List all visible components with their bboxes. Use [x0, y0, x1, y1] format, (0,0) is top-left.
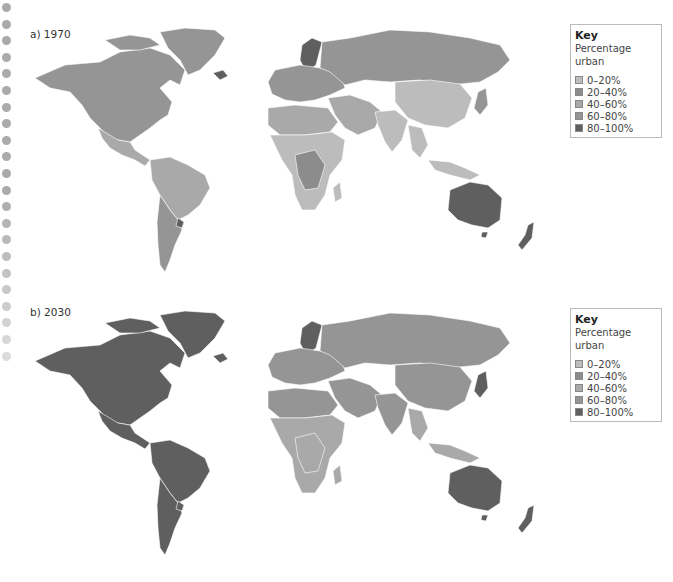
legend-label: 20–40% [587, 87, 627, 98]
legend-entry: 40–60% [575, 382, 661, 394]
region-sub-saharan-africa [333, 465, 342, 485]
legend-1970: Key Percentage urban 0–20% 20–40% 40–60%… [570, 24, 662, 138]
region-south-asia [375, 110, 408, 152]
legend-entry: 40–60% [575, 98, 661, 110]
legend-label: 60–80% [587, 111, 627, 122]
world-map-2030 [10, 293, 570, 563]
legend-entry: 80–100% [575, 406, 661, 418]
legend-label: 40–60% [587, 383, 627, 394]
region-australia [448, 465, 502, 511]
legend-swatch [575, 408, 583, 416]
legend-entry: 0–20% [575, 358, 661, 370]
world-map-1970 [10, 10, 570, 280]
legend-swatch [575, 88, 583, 96]
region-russia [320, 30, 510, 85]
legend-label: 40–60% [587, 99, 627, 110]
legend-label: 20–40% [587, 371, 627, 382]
legend-label: 80–100% [587, 123, 633, 134]
legend-label: 0–20% [587, 359, 621, 370]
region-iceland [213, 353, 228, 363]
legend-entry: 80–100% [575, 122, 661, 134]
legend-swatch [575, 372, 583, 380]
legend-entry: 60–80% [575, 394, 661, 406]
region-australia [481, 232, 488, 238]
legend-swatch [575, 76, 583, 84]
legend-swatch [575, 100, 583, 108]
region-australia [448, 182, 502, 228]
legend-subtitle: Percentage urban [575, 42, 661, 68]
region-north-america [105, 35, 160, 50]
legend-entry: 0–20% [575, 74, 661, 86]
region-north-africa [268, 105, 338, 135]
region-southeast-asia [428, 160, 480, 180]
region-iceland [213, 70, 228, 80]
region-north-america [105, 318, 160, 333]
region-middle-east [328, 95, 382, 135]
region-new-zealand [518, 505, 534, 533]
legend-title: Key [575, 29, 661, 42]
legend-swatch [575, 396, 583, 404]
region-japan [474, 88, 488, 115]
region-japan [474, 371, 488, 398]
region-middle-east [328, 378, 382, 418]
region-southeast-asia [408, 408, 428, 441]
legend-entry: 20–40% [575, 86, 661, 98]
legend-title: Key [575, 313, 661, 326]
legend-label: 0–20% [587, 75, 621, 86]
region-russia [320, 313, 510, 368]
region-southeast-asia [428, 443, 480, 463]
region-north-america [35, 331, 185, 425]
legend-subtitle: Percentage urban [575, 326, 661, 352]
region-sub-saharan-africa [333, 182, 342, 202]
region-north-africa [268, 388, 338, 418]
region-new-zealand [518, 222, 534, 250]
map-panel-1970: a) 1970 Key Percentage urban 0–20% 20–40… [0, 0, 673, 291]
legend-swatch [575, 124, 583, 132]
legend-swatch [575, 112, 583, 120]
legend-label: 80–100% [587, 407, 633, 418]
legend-swatch [575, 384, 583, 392]
map-panel-2030: b) 2030 Key Percentage urban 0–20% 20–40… [0, 291, 673, 582]
legend-label: 60–80% [587, 395, 627, 406]
region-south-asia [375, 393, 408, 435]
region-southeast-asia [408, 125, 428, 158]
legend-entry: 60–80% [575, 110, 661, 122]
legend-2030: Key Percentage urban 0–20% 20–40% 40–60%… [570, 308, 662, 422]
region-australia [481, 515, 488, 521]
region-north-america [35, 48, 185, 142]
legend-entry: 20–40% [575, 370, 661, 382]
legend-swatch [575, 360, 583, 368]
